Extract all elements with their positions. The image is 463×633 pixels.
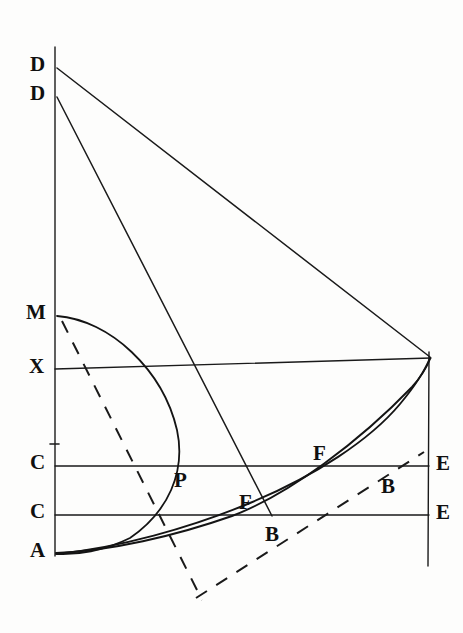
label-point-e-lower: E bbox=[436, 502, 450, 523]
line-d-lower-to-b bbox=[57, 97, 272, 516]
dashed-line-m-to-lower-right bbox=[62, 321, 202, 600]
label-point-c-upper: C bbox=[30, 452, 45, 473]
label-point-x: X bbox=[29, 356, 44, 377]
label-point-f-upper: F bbox=[313, 443, 326, 464]
geometry-figure bbox=[0, 0, 463, 633]
label-point-f-lower: F bbox=[239, 492, 252, 513]
right-vertical-line bbox=[428, 352, 429, 566]
line-d-upper-to-corner bbox=[57, 68, 430, 357]
label-point-a: A bbox=[30, 540, 45, 561]
label-point-d-upper: D bbox=[30, 54, 45, 75]
curve-lower-abf bbox=[56, 359, 430, 553]
label-point-e-upper: E bbox=[436, 453, 450, 474]
label-point-d-lower: D bbox=[30, 83, 45, 104]
label-point-b-lower: B bbox=[265, 524, 279, 545]
label-point-c-lower: C bbox=[30, 501, 45, 522]
label-point-m: M bbox=[26, 302, 46, 323]
diagram-canvas: D D M X C C A P F B F B E E bbox=[0, 0, 463, 633]
label-point-p: P bbox=[174, 470, 187, 491]
label-point-b-upper: B bbox=[381, 476, 395, 497]
curve-upper-abf bbox=[56, 358, 430, 554]
horizontal-line-x bbox=[55, 358, 431, 369]
